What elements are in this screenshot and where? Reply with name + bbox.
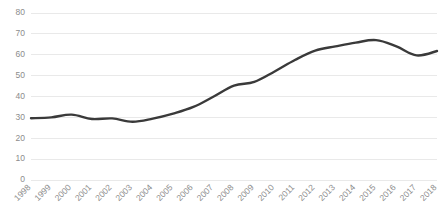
y-axis-tick-label: 10 xyxy=(16,153,26,163)
y-axis-tick-label: 50 xyxy=(16,70,26,80)
y-axis-tick-label: 60 xyxy=(16,49,26,59)
line-chart: 01020304050607080 1998199920002001200220… xyxy=(0,0,443,218)
y-axis-tick-label: 20 xyxy=(16,133,26,143)
y-axis-tick-label: 40 xyxy=(16,91,26,101)
chart-canvas: 01020304050607080 1998199920002001200220… xyxy=(0,0,443,218)
y-axis-tick-label: 70 xyxy=(16,28,26,38)
y-axis-tick-label: 30 xyxy=(16,112,26,122)
y-axis-tick-label: 80 xyxy=(16,7,26,17)
y-axis-labels-group: 01020304050607080 xyxy=(16,7,26,184)
